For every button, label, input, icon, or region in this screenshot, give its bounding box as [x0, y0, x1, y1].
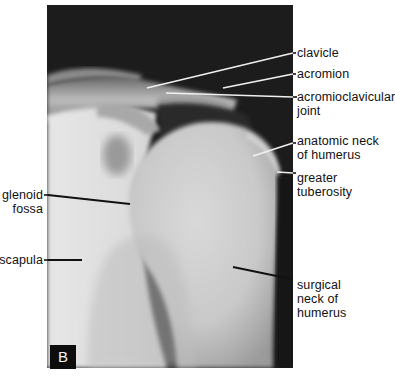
label-acromion: acromion — [297, 67, 349, 81]
leader-anatomic-neck — [253, 143, 293, 156]
label-anatomic-neck-of-humerus: anatomic neck of humerus — [297, 134, 379, 162]
label-acromioclavicular-joint: acromioclavicular joint — [297, 90, 395, 118]
leader-acromioclavicular-joint — [166, 93, 293, 97]
label-glenoid-fossa: glenoid fossa — [2, 188, 43, 216]
leader-surgical-neck — [233, 267, 291, 279]
label-surgical-neck-of-humerus: surgical neck of humerus — [297, 278, 346, 320]
leader-acromion — [223, 74, 293, 88]
leader-greater-tuberosity — [277, 172, 293, 173]
label-greater-tuberosity: greater tuberosity — [297, 171, 352, 199]
leader-clavicle — [147, 53, 293, 88]
panel-label-badge: B — [50, 345, 76, 369]
label-scapula: scapula — [0, 253, 43, 267]
label-clavicle: clavicle — [297, 46, 339, 60]
leader-glenoid-fossa — [48, 195, 130, 204]
